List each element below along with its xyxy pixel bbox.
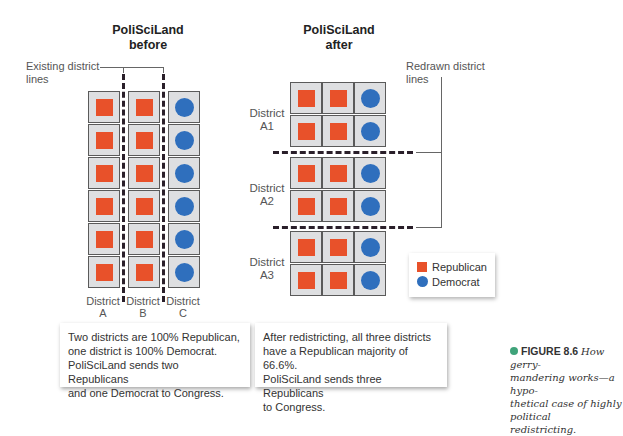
district-a1-label-line1: District — [245, 107, 289, 120]
district-a-label-line1: District — [81, 295, 125, 307]
democrat-circle-icon — [417, 276, 428, 287]
redrawn-lines-label: Redrawn district lines — [406, 60, 506, 86]
legend-label-democrat: Democrat — [432, 276, 480, 288]
democrat-circle-icon — [175, 131, 194, 150]
district-a2-label: District A2 — [245, 182, 289, 208]
after-note-line: PoliSciLand sends three Republicans — [263, 372, 439, 400]
voter-cell — [290, 115, 322, 147]
republican-square-icon — [136, 165, 153, 182]
republican-square-icon — [330, 90, 347, 107]
redrawn-lines-bracket-tick-1 — [416, 152, 442, 153]
republican-square-icon — [330, 272, 347, 289]
republican-square-icon — [298, 123, 315, 140]
voter-cell — [168, 190, 200, 222]
existing-lines-bracket-tick-right — [163, 67, 164, 73]
voter-cell — [88, 190, 120, 222]
district-b-label-line2: B — [121, 307, 165, 319]
caption-text: redistricting. — [510, 424, 576, 435]
district-a1-label-line2: A1 — [245, 120, 289, 133]
voter-cell — [128, 223, 160, 255]
voter-cell — [322, 115, 354, 147]
legend-item-republican: Republican — [417, 259, 487, 274]
caption-bullet-icon — [510, 347, 518, 355]
republican-square-icon — [298, 90, 315, 107]
republican-square-icon — [330, 123, 347, 140]
voter-cell — [354, 190, 386, 222]
voter-cell — [322, 264, 354, 296]
voter-cell — [88, 223, 120, 255]
caption-line-1: FIGURE 8.6 How gerry- — [510, 345, 623, 371]
before-title: PoliSciLand before — [108, 23, 188, 53]
democrat-circle-icon — [361, 122, 380, 141]
republican-square-icon — [298, 272, 315, 289]
republican-square-icon — [417, 262, 427, 272]
republican-square-icon — [96, 264, 113, 281]
redrawn-lines-bracket-tick-2 — [416, 227, 442, 228]
voter-cell — [354, 157, 386, 189]
district-a1-label: District A1 — [245, 107, 289, 133]
legend-label-republican: Republican — [432, 261, 487, 273]
district-c-label: District C — [161, 295, 205, 319]
republican-square-icon — [136, 264, 153, 281]
democrat-circle-icon — [175, 263, 194, 282]
before-note-line: one district is 100% Democrat. — [68, 344, 242, 358]
democrat-circle-icon — [175, 98, 194, 117]
democrat-circle-icon — [361, 271, 380, 290]
after-title-line2: after — [299, 38, 379, 53]
before-title-line1: PoliSciLand — [108, 23, 188, 38]
district-c-label-line2: C — [161, 307, 205, 319]
existing-lines-label-line2: lines — [26, 73, 126, 86]
voter-cell — [128, 256, 160, 288]
democrat-circle-icon — [175, 164, 194, 183]
redrawn-lines-label-line2: lines — [406, 73, 506, 86]
district-a-label-line2: A — [81, 307, 125, 319]
voter-cell — [290, 157, 322, 189]
caption-text: mandering works—a hypo- — [510, 372, 615, 396]
republican-square-icon — [330, 198, 347, 215]
district-b-label-line1: District — [121, 295, 165, 307]
district-line-ab — [122, 74, 125, 302]
voter-cell — [128, 91, 160, 123]
caption-text: thetical case of highly political — [510, 398, 622, 422]
district-a3-label: District A3 — [245, 256, 289, 282]
district-a2-label-line2: A2 — [245, 195, 289, 208]
voter-cell — [168, 91, 200, 123]
existing-lines-label: Existing district lines — [26, 60, 126, 86]
district-a3-label-line1: District — [245, 256, 289, 269]
after-note-line: to Congress. — [263, 400, 439, 414]
district-line-bc — [162, 74, 165, 302]
republican-square-icon — [298, 239, 315, 256]
voter-cell — [168, 157, 200, 189]
voter-cell — [354, 115, 386, 147]
democrat-circle-icon — [175, 230, 194, 249]
democrat-circle-icon — [361, 89, 380, 108]
democrat-circle-icon — [361, 197, 380, 216]
after-note: After redistricting, all three districts… — [255, 323, 447, 387]
district-a-label: District A — [81, 295, 125, 319]
voter-cell — [322, 82, 354, 114]
after-note-line: After redistricting, all three districts — [263, 330, 439, 344]
voter-cell — [88, 256, 120, 288]
republican-square-icon — [136, 231, 153, 248]
voter-cell — [88, 124, 120, 156]
before-note-line: Two districts are 100% Republican, — [68, 330, 242, 344]
after-title-line1: PoliSciLand — [299, 23, 379, 38]
before-note-line: PoliSciLand sends two Republicans — [68, 358, 242, 386]
voter-cell — [128, 190, 160, 222]
before-title-line2: before — [108, 38, 188, 53]
figure-label: FIGURE 8.6 — [521, 345, 578, 357]
democrat-circle-icon — [361, 238, 380, 257]
voter-cell — [290, 82, 322, 114]
district-c-label-line1: District — [161, 295, 205, 307]
voter-cell — [128, 124, 160, 156]
legend: Republican Democrat — [409, 253, 495, 297]
voter-cell — [168, 223, 200, 255]
republican-square-icon — [136, 99, 153, 116]
voter-cell — [322, 190, 354, 222]
republican-square-icon — [136, 132, 153, 149]
republican-square-icon — [298, 198, 315, 215]
before-note: Two districts are 100% Republican, one d… — [60, 323, 250, 387]
voter-cell — [168, 256, 200, 288]
district-line-a1-a2 — [273, 151, 413, 154]
after-title: PoliSciLand after — [299, 23, 379, 53]
